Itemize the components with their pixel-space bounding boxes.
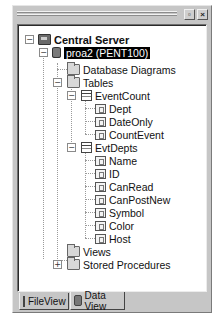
node-label: Color: [109, 220, 134, 232]
tree-node-column[interactable]: DateOnly: [95, 115, 153, 128]
column-icon: [95, 182, 106, 192]
tree-node-tables[interactable]: Tables: [67, 76, 113, 89]
node-label: EventCount: [95, 90, 150, 102]
database-icon: [74, 295, 82, 306]
column-icon: [95, 221, 106, 231]
workspace-panel: ▫ × − Central Server − proa2 (PEN: [12, 5, 212, 313]
column-icon: [95, 208, 106, 218]
collapse-toggle[interactable]: −: [25, 35, 34, 44]
restore-button[interactable]: ▫: [184, 9, 195, 20]
node-label: EvtDepts: [95, 142, 138, 154]
view-tabs: FileView Data View: [17, 293, 209, 311]
tab-label: Data View: [85, 290, 121, 312]
collapse-toggle[interactable]: −: [39, 48, 48, 57]
column-icon: [95, 234, 106, 244]
folder-icon: [67, 259, 80, 270]
expand-toggle[interactable]: +: [53, 260, 62, 269]
tree-node-database[interactable]: proa2 (PENT100): [52, 46, 150, 59]
node-label: Symbol: [109, 207, 144, 219]
folder-icon: [67, 64, 80, 75]
collapse-toggle[interactable]: −: [67, 91, 76, 100]
tab-label: FileView: [28, 296, 66, 307]
node-label: CanPostNew: [109, 194, 170, 206]
tree-node-column[interactable]: Color: [95, 219, 134, 232]
tree-node-table-evtdepts[interactable]: EvtDepts: [81, 141, 138, 154]
tree-node-column[interactable]: CanRead: [95, 180, 153, 193]
node-label: Dept: [109, 103, 131, 115]
server-icon: [38, 34, 51, 45]
collapse-toggle[interactable]: −: [53, 78, 62, 87]
close-button[interactable]: ×: [197, 9, 208, 20]
node-label: ID: [109, 168, 120, 180]
column-icon: [95, 156, 106, 166]
collapse-toggle[interactable]: −: [67, 143, 76, 152]
file-icon: [23, 296, 25, 307]
tree-node-database-diagrams[interactable]: Database Diagrams: [67, 63, 176, 76]
tree-node-column[interactable]: CanPostNew: [95, 193, 170, 206]
node-label: Central Server: [54, 34, 129, 46]
node-label: Database Diagrams: [83, 64, 176, 76]
tab-dataview[interactable]: Data View: [70, 292, 125, 310]
column-icon: [95, 169, 106, 179]
tree-node-stored-procedures[interactable]: Stored Procedures: [67, 258, 171, 271]
node-label: Name: [109, 155, 137, 167]
tree-node-column[interactable]: CountEvent: [95, 128, 164, 141]
tree-node-column[interactable]: Host: [95, 232, 131, 245]
node-label: Stored Procedures: [83, 259, 171, 271]
node-label: Host: [109, 233, 131, 245]
node-label: DateOnly: [109, 116, 153, 128]
tree-node-column[interactable]: ID: [95, 167, 120, 180]
panel-grip[interactable]: [17, 11, 177, 19]
node-label: Tables: [83, 77, 113, 89]
column-icon: [95, 104, 106, 114]
column-icon: [95, 195, 106, 205]
tree-node-column[interactable]: Name: [95, 154, 137, 167]
column-icon: [95, 130, 106, 140]
table-icon: [81, 142, 92, 153]
node-label: proa2 (PENT100): [64, 47, 150, 59]
folder-icon: [67, 246, 80, 257]
node-label: Views: [83, 246, 111, 258]
folder-icon: [67, 77, 80, 88]
tree-node-column[interactable]: Dept: [95, 102, 131, 115]
table-icon: [81, 90, 92, 101]
database-icon: [52, 47, 61, 58]
node-label: CountEvent: [109, 129, 164, 141]
tree-node-column[interactable]: Symbol: [95, 206, 144, 219]
tab-fileview[interactable]: FileView: [19, 293, 69, 310]
node-label: CanRead: [109, 181, 153, 193]
data-view-tree[interactable]: − Central Server − proa2 (PENT100) Datab…: [17, 24, 207, 292]
tree-node-server[interactable]: Central Server: [38, 33, 129, 46]
tree-node-table-eventcount[interactable]: EventCount: [81, 89, 150, 102]
column-icon: [95, 117, 106, 127]
